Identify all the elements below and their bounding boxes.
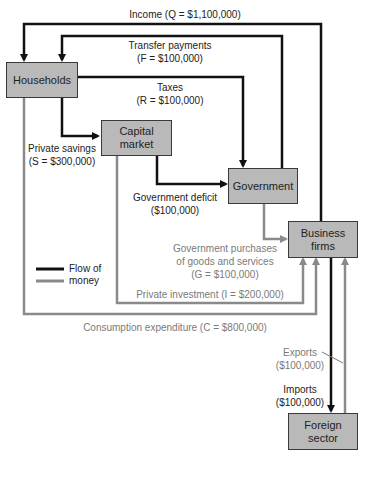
transfer-label-1: Transfer payments — [110, 40, 230, 52]
gov-purchases-label-2: of goods and services — [165, 256, 285, 268]
gov-purchases-flow — [264, 203, 286, 239]
transfer-label-2: (F = $100,000) — [110, 53, 230, 65]
investment-label: Private investment (I = $200,000) — [125, 289, 295, 301]
government-box: Government — [228, 168, 298, 204]
savings-label-2: (S = $300,000) — [22, 156, 102, 168]
deficit-label-1: Government deficit — [120, 192, 230, 204]
taxes-label-1: Taxes — [120, 82, 220, 94]
foreign-label-2: sector — [308, 432, 338, 445]
gov-purchases-label-1: Government purchases — [165, 243, 285, 255]
business-label-2: firms — [311, 240, 335, 253]
exports-label-1: Exports — [270, 347, 330, 359]
savings-flow — [62, 97, 98, 136]
taxes-label-2: (R = $100,000) — [120, 95, 220, 107]
deficit-flow — [157, 155, 226, 184]
foreign-label-1: Foreign — [304, 419, 341, 432]
gov-purchases-label-3: (G = $100,000) — [165, 269, 285, 281]
exports-label-2: ($100,000) — [270, 360, 330, 372]
capital-label-2: market — [120, 138, 154, 151]
savings-label-1: Private savings — [22, 143, 102, 155]
capital-label-1: Capital — [119, 125, 153, 138]
deficit-label-2: ($100,000) — [120, 205, 230, 217]
consumption-label: Consumption expenditure (C = $800,000) — [70, 322, 280, 334]
capital-market-box: Capital market — [101, 120, 172, 156]
legend-label-2: money — [69, 275, 99, 287]
imports-label-1: Imports — [270, 384, 330, 396]
foreign-sector-box: Foreign sector — [288, 413, 358, 450]
households-box: Households — [6, 62, 78, 98]
income-label: Income (Q = $1,100,000) — [110, 9, 260, 21]
legend-label-1: Flow of — [69, 263, 101, 275]
business-firms-box: Business firms — [288, 221, 358, 258]
business-label-1: Business — [301, 227, 346, 240]
imports-label-2: ($100,000) — [270, 397, 330, 409]
